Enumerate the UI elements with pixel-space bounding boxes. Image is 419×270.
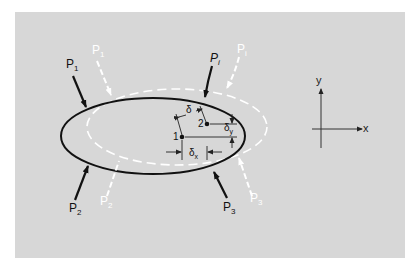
label-p1: P1 [66,57,78,73]
label-p2: P2 [69,201,81,217]
y-axis-label: y [316,74,322,86]
load-arrow-pi [205,66,212,97]
point-2-marker [205,122,210,127]
original-body-outline [61,98,245,174]
displaced-label-p2: P2 [100,194,112,210]
coordinate-axes [312,89,362,148]
displaced-label-pi: Pi [237,42,247,58]
displaced-load-arrow-p2 [107,161,119,196]
point-1-marker [180,135,185,140]
rigid-body-displacement-diagram [0,0,419,270]
delta-y-label: δy [224,122,233,135]
displaced-label-p1: P1 [92,43,104,59]
displaced-body-outline [87,89,267,165]
label-pi: Pi [210,51,220,67]
delta-total-label: δ [186,104,192,115]
label-p3: P3 [223,200,235,216]
load-arrow-p3 [214,172,227,198]
displaced-label-p3: P3 [250,191,262,207]
point-1-label: 1 [173,131,179,142]
load-arrow-p1 [73,76,86,107]
point-2-label: 2 [198,118,204,129]
displaced-load-arrow-p1 [97,61,111,95]
delta-x-label: δx [189,147,198,160]
load-arrow-p2 [75,166,88,200]
x-axis-label: x [363,122,369,134]
displaced-load-arrow-pi [227,57,239,88]
